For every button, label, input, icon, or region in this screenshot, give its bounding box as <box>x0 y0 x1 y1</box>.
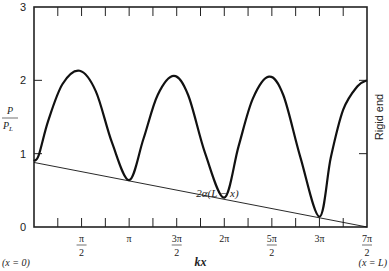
annotation-rigid-end: Rigid end <box>373 94 385 140</box>
y-tick-label: 0 <box>20 221 26 233</box>
series <box>34 71 367 227</box>
y-tick-label: 1 <box>20 148 26 160</box>
labels: 0123π2π3π22π5π23π7π22α(L − x)Rigid end(x… <box>2 1 388 269</box>
x-tick-label-den: 2 <box>79 247 84 258</box>
x-tick-label-num: 5π <box>267 233 277 244</box>
x-tick-label-den: 2 <box>174 247 179 258</box>
x-tick-label-num: 3π <box>172 233 182 244</box>
annotation-friction-line: 2α(L − x) <box>196 187 239 200</box>
annotation-x-zero: (x = 0) <box>2 257 31 269</box>
x-tick-label: 2π <box>219 233 229 244</box>
x-tick-label-den: 2 <box>269 247 274 258</box>
y-axis-label-denominator: PL <box>2 120 13 133</box>
x-tick-label-num: 7π <box>362 233 372 244</box>
y-tick-label: 2 <box>20 74 26 86</box>
x-tick-label: π <box>127 233 132 244</box>
y-axis-label-numerator: P <box>6 105 13 116</box>
annotation-x-L: (x = L) <box>359 257 388 269</box>
y-tick-label: 3 <box>20 1 26 13</box>
x-tick-label-num: π <box>79 233 84 244</box>
x-axis-label: kx <box>195 255 207 269</box>
x-tick-label: 3π <box>314 233 324 244</box>
chart: 0123π2π3π22π5π23π7π22α(L − x)Rigid end(x… <box>0 0 389 271</box>
